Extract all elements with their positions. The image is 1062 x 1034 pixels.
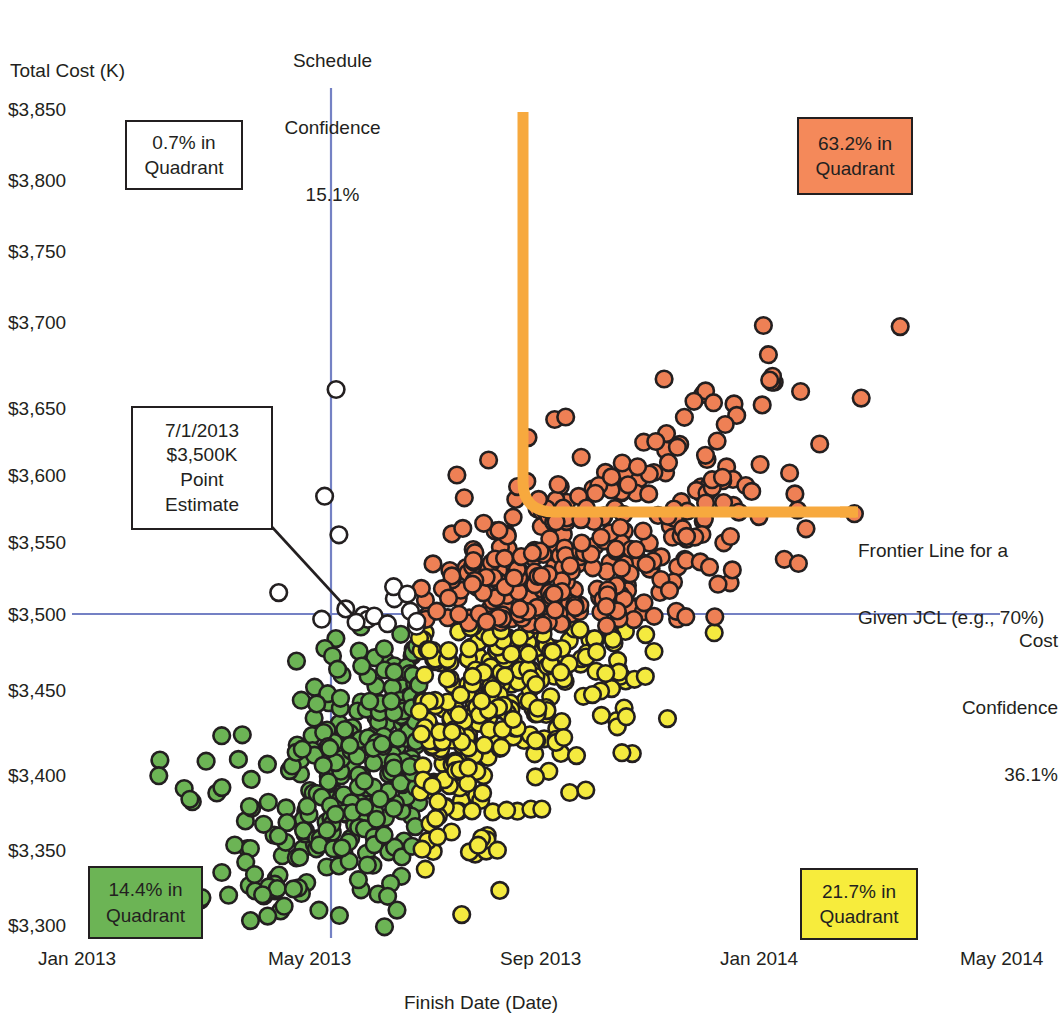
data-point: [338, 806, 355, 823]
data-point: [596, 533, 613, 550]
data-point: [497, 579, 514, 596]
data-point: [515, 641, 532, 658]
data-point: [562, 558, 579, 575]
data-point: [293, 692, 310, 709]
data-point: [535, 626, 552, 643]
data-point: [534, 801, 551, 818]
data-point: [508, 608, 525, 625]
data-point: [352, 731, 369, 748]
data-point: [555, 526, 572, 543]
data-point: [511, 606, 528, 623]
data-point: [308, 696, 325, 713]
data-point: [468, 787, 485, 804]
data-point: [312, 830, 329, 847]
data-point: [608, 541, 625, 558]
data-point: [699, 485, 716, 502]
quadrant-upper-left-label: Quadrant: [144, 155, 223, 180]
data-point: [557, 673, 574, 690]
data-point: [465, 554, 482, 571]
data-point: [553, 713, 570, 730]
data-point: [853, 390, 870, 407]
data-point: [497, 632, 514, 649]
series-above-cost-late-orange: [413, 317, 909, 634]
data-point: [471, 606, 488, 623]
y-tick-3550: $3,550: [8, 532, 66, 554]
data-point: [427, 653, 444, 670]
data-point: [500, 630, 517, 647]
data-point: [546, 641, 563, 658]
data-point: [760, 346, 777, 363]
data-point: [609, 536, 626, 553]
data-point: [478, 843, 495, 860]
data-point: [320, 694, 337, 711]
data-point: [556, 671, 573, 688]
data-point: [353, 882, 370, 899]
y-tick-3700: $3,700: [8, 312, 66, 334]
data-point: [541, 508, 558, 525]
data-point: [526, 543, 543, 560]
data-point: [507, 635, 524, 652]
data-point: [496, 598, 513, 615]
data-point: [467, 544, 484, 561]
data-point: [374, 736, 391, 753]
data-point: [513, 602, 530, 619]
data-point: [628, 485, 645, 502]
data-point: [419, 833, 436, 850]
data-point: [360, 668, 377, 685]
data-point: [544, 644, 561, 661]
data-point: [598, 618, 615, 635]
data-point: [466, 747, 483, 764]
data-point: [550, 649, 567, 666]
data-point: [511, 562, 528, 579]
data-point: [385, 578, 402, 595]
cost-confidence-value: 36.1%: [900, 764, 1058, 786]
data-point: [396, 773, 413, 790]
data-point: [334, 667, 351, 684]
data-point: [669, 559, 686, 576]
data-point: [722, 575, 739, 592]
data-point: [589, 581, 606, 598]
data-point: [518, 595, 535, 612]
data-point: [707, 609, 724, 626]
data-point: [534, 636, 551, 653]
data-point: [697, 383, 714, 400]
data-point: [266, 827, 283, 844]
data-point: [395, 753, 412, 770]
data-point: [281, 762, 298, 779]
data-point: [422, 722, 439, 739]
data-point: [509, 720, 526, 737]
data-point: [701, 477, 718, 494]
data-point: [260, 794, 277, 811]
data-point: [705, 394, 722, 411]
data-point: [598, 563, 615, 580]
data-point: [612, 519, 629, 536]
data-point: [527, 577, 544, 594]
data-point: [613, 479, 630, 496]
data-point: [432, 655, 449, 672]
data-point: [385, 754, 402, 771]
data-point: [502, 695, 519, 712]
data-point: [656, 371, 673, 388]
data-point: [491, 686, 508, 703]
data-point: [393, 626, 410, 643]
data-point: [498, 658, 515, 675]
data-point: [356, 799, 373, 816]
data-point: [573, 535, 590, 552]
data-point: [485, 569, 502, 586]
data-point: [322, 740, 339, 757]
data-point: [365, 740, 382, 757]
data-point: [453, 906, 470, 923]
data-point: [365, 779, 382, 796]
quadrant-upper-right-label: Quadrant: [815, 156, 894, 181]
data-point: [539, 702, 556, 719]
data-point: [366, 836, 383, 853]
data-point: [373, 750, 390, 767]
data-point: [666, 510, 683, 527]
data-point: [706, 624, 723, 641]
data-point: [464, 803, 481, 820]
data-point: [573, 511, 590, 528]
data-point: [542, 643, 559, 660]
quadrant-box-upper-left: 0.7% in Quadrant: [125, 120, 243, 190]
data-point: [460, 740, 477, 757]
quadrant-upper-left-value: 0.7% in: [152, 130, 215, 155]
